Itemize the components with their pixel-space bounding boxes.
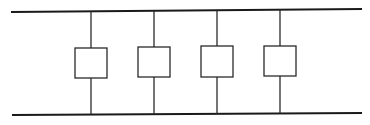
branch-4 xyxy=(264,10,296,114)
branch-3 xyxy=(201,10,233,114)
bottom-rail xyxy=(12,113,362,115)
branches-group xyxy=(75,10,296,115)
element-box-2 xyxy=(138,47,170,77)
parallel-ladder-diagram xyxy=(0,0,370,125)
element-box-3 xyxy=(201,46,233,77)
element-box-4 xyxy=(264,46,296,76)
top-rail xyxy=(11,9,362,12)
branch-2 xyxy=(138,11,170,114)
branch-1 xyxy=(75,11,107,114)
element-box-1 xyxy=(75,48,107,78)
